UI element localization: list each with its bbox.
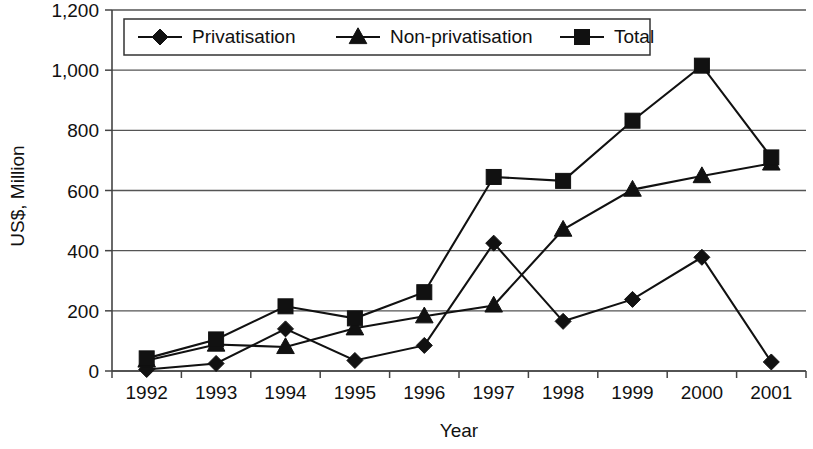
y-tick-label: 0 [88,361,99,382]
square-marker [347,311,362,326]
square-marker [278,299,293,314]
square-marker [486,169,501,184]
square-marker [417,285,432,300]
x-tick-label: 2001 [750,382,792,403]
square-marker [625,113,640,128]
diamond-marker [208,355,224,371]
x-tick-label: 2000 [681,382,723,403]
diamond-marker [278,321,294,337]
x-tick-label: 1993 [195,382,237,403]
diamond-marker [625,291,641,307]
x-axis-title: Year [440,420,479,441]
square-marker [139,351,154,366]
series-line [147,66,772,359]
series-line [147,243,772,369]
x-tick-label: 1998 [542,382,584,403]
legend-label: Total [614,26,654,47]
y-tick-labels-group: 02004006008001,0001,200 [51,0,99,382]
diamond-marker [763,354,779,370]
square-marker [209,332,224,347]
x-tick-labels-group: 1992199319941995199619971998199920002001 [126,382,793,403]
y-tick-label: 200 [67,301,99,322]
x-tick-label: 1992 [126,382,168,403]
series-non-privatisation [138,154,780,367]
x-tick-label: 1994 [264,382,307,403]
chart-legend: PrivatisationNon-privatisationTotal [124,19,654,55]
x-tick-label: 1996 [403,382,445,403]
series-privatisation [139,235,780,377]
diamond-marker [694,249,710,265]
y-axis-title: US$, Million [7,145,28,246]
line-chart: 02004006008001,0001,200 1992199319941995… [0,0,813,449]
square-marker [764,150,779,165]
data-series-group [138,58,780,377]
y-tick-label: 600 [67,181,99,202]
chart-svg: 02004006008001,0001,200 1992199319941995… [0,0,813,449]
x-tick-label: 1999 [611,382,653,403]
x-tick-label: 1995 [334,382,376,403]
diamond-marker [347,352,363,368]
series-total [139,58,779,366]
y-tick-label: 1,000 [51,60,99,81]
y-tick-label: 800 [67,120,99,141]
y-tick-label: 1,200 [51,0,99,21]
series-line [147,163,772,360]
y-tick-label: 400 [67,241,99,262]
square-marker [694,58,709,73]
legend-label: Privatisation [192,26,296,47]
square-marker [575,30,590,45]
square-marker [556,173,571,188]
triangle-marker [554,220,572,236]
x-tick-label: 1997 [473,382,515,403]
legend-label: Non-privatisation [390,26,533,47]
diamond-marker [416,337,432,353]
